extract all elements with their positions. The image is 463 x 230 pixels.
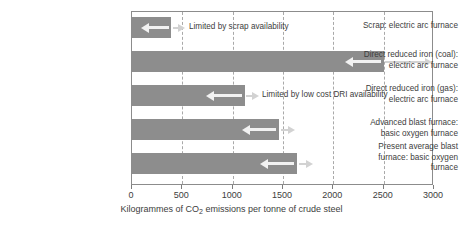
extension-arrow-icon [246, 85, 259, 106]
x-axis-title-post: emissions per tonne of crude steel [203, 204, 343, 214]
tick-mark-1500 [282, 185, 283, 189]
x-axis-title-pre: Kilogrammes of CO [120, 204, 199, 214]
label-line: Direct reduced iron (coal): [337, 50, 458, 61]
tick-label-3000: 3000 [423, 190, 443, 200]
category-label-dri-coal: Direct reduced iron (coal): electric arc… [337, 50, 463, 71]
tick-mark-1000 [232, 185, 233, 189]
tick-label-2500: 2500 [373, 190, 393, 200]
tick-label-1500: 1500 [272, 190, 292, 200]
extension-arrow-icon [299, 153, 313, 174]
label-line: basic oxygen furnace [337, 129, 458, 140]
label-line: Advanced blast furnace: [337, 118, 458, 129]
tick-mark-0 [131, 185, 132, 189]
bar-chart: Limited by scrap availability Limited by… [0, 0, 463, 230]
label-line: furnace [337, 163, 458, 174]
label-line: furnace: basic oxygen [337, 153, 458, 164]
tick-label-500: 500 [174, 190, 189, 200]
label-line: Direct reduced iron (gas): [337, 84, 458, 95]
category-label-advanced-blast-furnace: Advanced blast furnace: basic oxygen fur… [337, 118, 463, 139]
label-line: electric arc furnace [337, 61, 458, 72]
label-line: electric arc furnace [337, 95, 458, 106]
tick-label-2000: 2000 [322, 190, 342, 200]
category-label-present-average-blast-furnace: Present average blast furnace: basic oxy… [337, 142, 463, 174]
bar-present-average-blast-furnace[interactable] [132, 153, 297, 174]
category-label-dri-gas: Direct reduced iron (gas): electric arc … [337, 84, 463, 105]
tick-mark-500 [181, 185, 182, 189]
label-line: Scrap: electric arc furnace [337, 21, 458, 32]
tick-mark-3000 [433, 185, 434, 189]
bar-advanced-blast-furnace[interactable] [132, 119, 279, 140]
x-axis-title: Kilogrammes of CO2 emissions per tonne o… [0, 204, 463, 215]
annotation-scrap-availability: Limited by scrap availability [189, 23, 289, 31]
tick-mark-2500 [383, 185, 384, 189]
tick-mark-2000 [332, 185, 333, 189]
tick-label-1000: 1000 [222, 190, 242, 200]
category-label-scrap: Scrap: electric arc furnace [337, 21, 463, 32]
label-line: Present average blast [337, 142, 458, 153]
tick-label-0: 0 [128, 190, 133, 200]
bar-direct-reduced-iron-gas[interactable] [132, 85, 245, 106]
bar-scrap-electric-arc-furnace[interactable] [132, 17, 171, 38]
